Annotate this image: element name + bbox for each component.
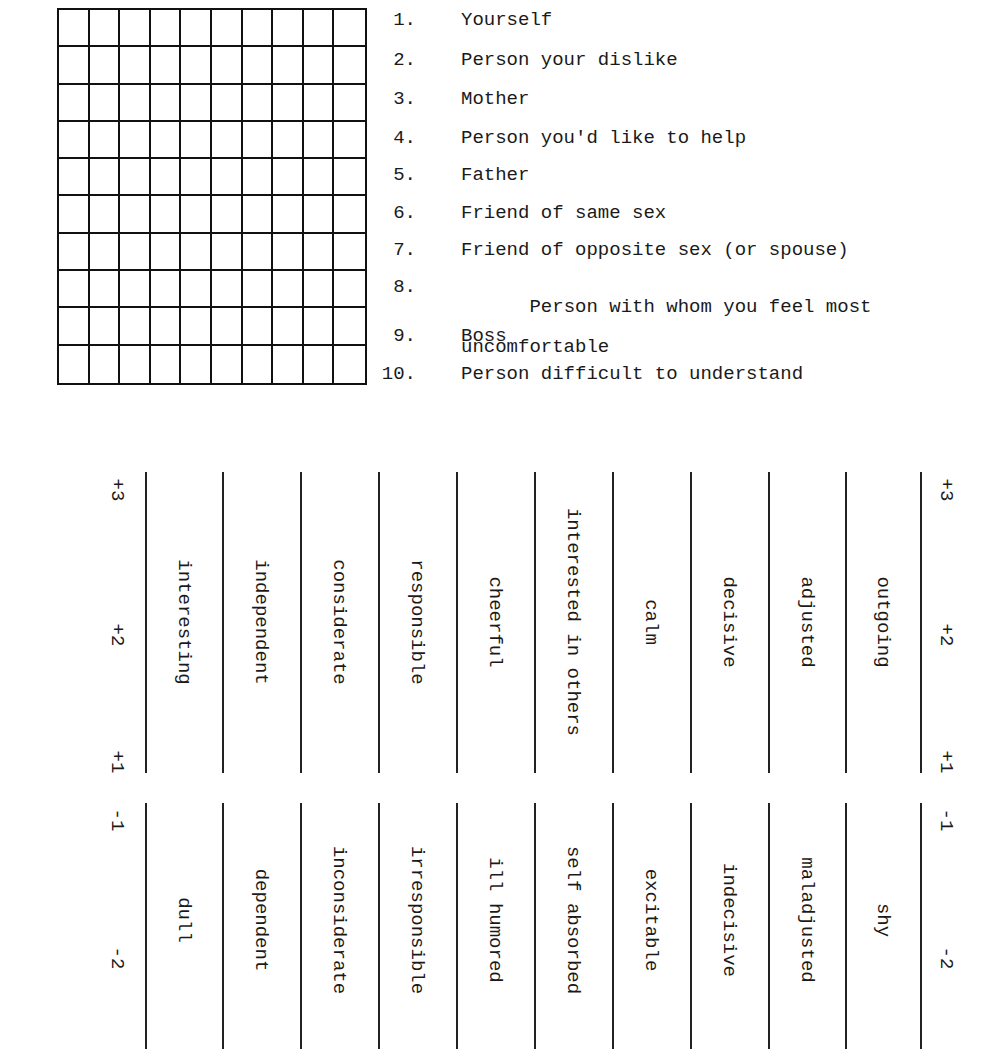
grid-cell[interactable] — [120, 308, 151, 345]
grid-cell[interactable] — [273, 85, 304, 122]
grid-cell[interactable] — [151, 47, 182, 84]
grid-cell[interactable] — [212, 196, 243, 233]
grid-cell[interactable] — [90, 271, 121, 308]
grid-cell[interactable] — [181, 10, 212, 47]
grid-cell[interactable] — [212, 308, 243, 345]
grid-cell[interactable] — [334, 10, 365, 47]
grid-cell[interactable] — [90, 47, 121, 84]
grid-cell[interactable] — [304, 308, 335, 345]
grid-cell[interactable] — [334, 271, 365, 308]
grid-cell[interactable] — [243, 234, 274, 271]
grid-cell[interactable] — [273, 234, 304, 271]
grid-cell[interactable] — [273, 308, 304, 345]
grid-cell[interactable] — [59, 159, 90, 196]
grid-cell[interactable] — [90, 122, 121, 159]
grid-cell[interactable] — [120, 159, 151, 196]
grid-cell[interactable] — [59, 47, 90, 84]
grid-cell[interactable] — [151, 196, 182, 233]
grid-cell[interactable] — [243, 308, 274, 345]
grid-cell[interactable] — [181, 271, 212, 308]
grid-cell[interactable] — [181, 346, 212, 383]
grid-cell[interactable] — [212, 122, 243, 159]
grid-cell[interactable] — [212, 159, 243, 196]
grid-cell[interactable] — [90, 159, 121, 196]
grid-cell[interactable] — [334, 308, 365, 345]
grid-cell[interactable] — [151, 308, 182, 345]
grid-cell[interactable] — [334, 47, 365, 84]
grid-cell[interactable] — [59, 196, 90, 233]
grid-cell[interactable] — [120, 122, 151, 159]
grid-cell[interactable] — [59, 10, 90, 47]
grid-cell[interactable] — [334, 346, 365, 383]
grid-cell[interactable] — [273, 47, 304, 84]
grid-cell[interactable] — [120, 10, 151, 47]
grid-cell[interactable] — [212, 85, 243, 122]
grid-cell[interactable] — [151, 85, 182, 122]
grid-cell[interactable] — [59, 85, 90, 122]
grid-cell[interactable] — [59, 122, 90, 159]
grid-cell[interactable] — [243, 159, 274, 196]
grid-cell[interactable] — [90, 85, 121, 122]
grid-cell[interactable] — [304, 346, 335, 383]
grid-cell[interactable] — [243, 346, 274, 383]
grid-cell[interactable] — [90, 346, 121, 383]
grid-cell[interactable] — [59, 271, 90, 308]
grid-cell[interactable] — [181, 47, 212, 84]
grid-cell[interactable] — [181, 85, 212, 122]
grid-cell[interactable] — [151, 234, 182, 271]
grid-cell[interactable] — [151, 271, 182, 308]
grid-cell[interactable] — [212, 271, 243, 308]
grid-cell[interactable] — [304, 196, 335, 233]
grid-cell[interactable] — [334, 234, 365, 271]
grid-cell[interactable] — [273, 346, 304, 383]
grid-cell[interactable] — [304, 85, 335, 122]
grid-cell[interactable] — [90, 308, 121, 345]
grid-cell[interactable] — [151, 346, 182, 383]
grid-cell[interactable] — [90, 234, 121, 271]
grid-cell[interactable] — [120, 196, 151, 233]
grid-cell[interactable] — [334, 85, 365, 122]
grid-cell[interactable] — [243, 47, 274, 84]
grid-cell[interactable] — [120, 234, 151, 271]
grid-cell[interactable] — [212, 10, 243, 47]
grid-cell[interactable] — [90, 10, 121, 47]
grid-cell[interactable] — [243, 271, 274, 308]
grid-cell[interactable] — [151, 122, 182, 159]
grid-cell[interactable] — [334, 122, 365, 159]
grid-cell[interactable] — [304, 10, 335, 47]
grid-cell[interactable] — [151, 159, 182, 196]
grid-cell[interactable] — [212, 346, 243, 383]
grid-cell[interactable] — [181, 159, 212, 196]
grid-cell[interactable] — [334, 159, 365, 196]
grid-cell[interactable] — [243, 122, 274, 159]
grid-cell[interactable] — [243, 85, 274, 122]
grid-cell[interactable] — [304, 234, 335, 271]
grid-cell[interactable] — [212, 234, 243, 271]
grid-cell[interactable] — [243, 196, 274, 233]
grid-cell[interactable] — [181, 122, 212, 159]
grid-cell[interactable] — [304, 122, 335, 159]
grid-cell[interactable] — [59, 346, 90, 383]
grid-cell[interactable] — [273, 122, 304, 159]
grid-cell[interactable] — [304, 47, 335, 84]
grid-cell[interactable] — [90, 196, 121, 233]
grid-cell[interactable] — [120, 346, 151, 383]
grid-cell[interactable] — [304, 271, 335, 308]
grid-cell[interactable] — [273, 159, 304, 196]
grid-cell[interactable] — [304, 159, 335, 196]
grid-cell[interactable] — [273, 271, 304, 308]
grid-cell[interactable] — [120, 271, 151, 308]
grid-cell[interactable] — [334, 196, 365, 233]
grid-cell[interactable] — [181, 308, 212, 345]
grid-cell[interactable] — [59, 234, 90, 271]
grid-cell[interactable] — [120, 85, 151, 122]
grid-cell[interactable] — [151, 10, 182, 47]
grid-cell[interactable] — [273, 10, 304, 47]
grid-cell[interactable] — [181, 196, 212, 233]
grid-cell[interactable] — [273, 196, 304, 233]
grid-cell[interactable] — [243, 10, 274, 47]
grid-cell[interactable] — [120, 47, 151, 84]
grid-cell[interactable] — [59, 308, 90, 345]
grid-cell[interactable] — [212, 47, 243, 84]
grid-cell[interactable] — [181, 234, 212, 271]
